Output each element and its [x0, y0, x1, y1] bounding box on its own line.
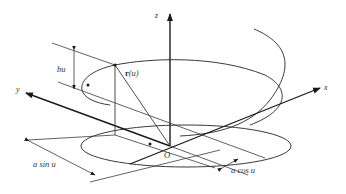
a-sin-u-label: a sin u: [33, 160, 56, 169]
construction-line: [58, 82, 265, 158]
position-vector-label: r(u): [125, 69, 139, 78]
position-vector-arg: (u): [129, 68, 139, 78]
base-circle: [81, 125, 291, 167]
helix-curve: [82, 29, 285, 136]
a-sin-u-dimension: [29, 141, 95, 175]
y-axis: [26, 93, 170, 146]
a-cos-u-label: a cos u: [231, 166, 255, 175]
projection-line: [90, 150, 220, 182]
projection-line: [28, 135, 115, 140]
pitch-label: bu: [57, 65, 66, 74]
origin-label: O: [164, 151, 170, 160]
y-axis-label: y: [16, 86, 20, 94]
lower-center-dot: [149, 143, 152, 146]
helix-point: [113, 63, 116, 66]
z-axis-label: z: [155, 12, 158, 20]
construction-line: [52, 43, 115, 65]
position-vector: [115, 65, 170, 146]
x-axis-label: x: [324, 84, 328, 92]
upper-center-dot: [87, 84, 90, 87]
helix-diagram: z y x O bu r(u) a sin u a cos u: [0, 0, 346, 194]
